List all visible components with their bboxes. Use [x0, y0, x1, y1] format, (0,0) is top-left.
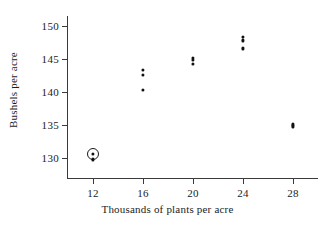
plot-area: 1301351401451501216202428 — [68, 16, 318, 178]
y-axis-tick — [62, 125, 68, 126]
y-axis-tick-label: 140 — [42, 86, 59, 98]
data-point — [141, 68, 144, 71]
data-point — [141, 73, 144, 76]
data-point — [91, 158, 94, 161]
y-axis-title-text: Bushels per acre — [7, 52, 19, 128]
y-axis-tick-label: 145 — [42, 53, 59, 65]
data-point — [191, 63, 194, 66]
x-axis-tick-label: 12 — [87, 187, 99, 199]
x-axis-tick-label: 24 — [237, 187, 249, 199]
x-axis-tick — [143, 178, 144, 184]
y-axis-tick — [62, 59, 68, 60]
data-point — [291, 125, 294, 128]
data-point — [191, 58, 194, 61]
scatter-plot-figure: Bushels per acre 13013514014515012162024… — [0, 0, 335, 230]
x-axis-tick-label: 20 — [187, 187, 199, 199]
x-axis-tick — [193, 178, 194, 184]
data-point — [141, 88, 144, 91]
x-axis-tick-label: 28 — [287, 187, 299, 199]
x-axis-title: Thousands of plants per acre — [0, 203, 335, 215]
x-axis-tick — [293, 178, 294, 184]
y-axis-tick-label: 150 — [42, 20, 59, 32]
x-axis-tick — [243, 178, 244, 184]
x-axis-tick-label: 16 — [137, 187, 149, 199]
y-axis-tick — [62, 26, 68, 27]
y-axis-tick-label: 130 — [42, 152, 59, 164]
x-axis-tick — [93, 178, 94, 184]
y-axis-tick-label: 135 — [42, 119, 59, 131]
data-point — [241, 47, 244, 50]
y-axis-tick — [62, 158, 68, 159]
y-axis-tick — [62, 92, 68, 93]
y-axis-title: Bushels per acre — [4, 0, 22, 180]
data-point — [241, 39, 244, 42]
